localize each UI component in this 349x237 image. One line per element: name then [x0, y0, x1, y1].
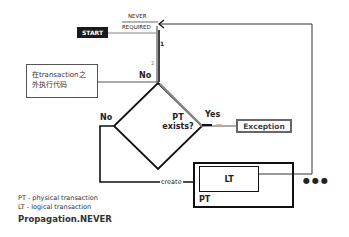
outside-transaction-box: 在transaction之 外执行代码: [26, 64, 98, 98]
edge-label-yes: Yes: [205, 110, 220, 119]
more-dots-icon: ●●●: [303, 176, 330, 185]
exception-node: Exception: [236, 119, 292, 133]
edge-label-no-top: No: [139, 71, 151, 80]
outside-transaction-line1: 在transaction之: [32, 70, 97, 80]
legend-lt: LT - logical transaction: [18, 203, 91, 211]
step-marker-1: 1: [160, 40, 164, 47]
diagram-title: Propagation.NEVER: [18, 214, 112, 224]
edge-ellipsis: ...: [216, 119, 222, 126]
decision-line1: PT: [152, 113, 204, 122]
pt-label: PT: [199, 195, 210, 204]
edge-label-create: create: [160, 178, 183, 186]
edge-label-no-left: No: [100, 113, 112, 122]
outside-transaction-line2: 外执行代码: [32, 80, 97, 90]
decision-line2: exists?: [152, 122, 204, 131]
decision-node: PT exists?: [152, 113, 204, 131]
start-node: START: [77, 27, 108, 38]
logical-transaction-box: LT: [199, 166, 259, 192]
legend-pt: PT - physical transaction: [18, 194, 98, 202]
branch-label-never: NEVER: [128, 13, 147, 19]
step-marker-2: 2: [151, 60, 154, 66]
branch-label-required: REQUIRED: [122, 24, 151, 30]
